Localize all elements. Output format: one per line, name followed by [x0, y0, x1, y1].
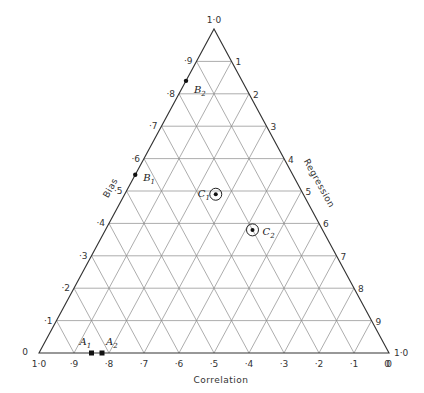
tick-regression: 9 — [376, 317, 382, 327]
tick-bias: ·2 — [61, 283, 70, 293]
tick-bias: ·1 — [44, 316, 53, 326]
grid-line-correlation — [162, 126, 285, 353]
point-marker — [89, 351, 94, 356]
tick-correlation: ·6 — [175, 359, 184, 369]
tick-correlation: ·5 — [210, 359, 219, 369]
point-label: C1 — [198, 188, 210, 202]
tick-regression: 3 — [271, 122, 277, 132]
point-label-subscript: 1 — [205, 194, 209, 202]
grid-lines — [57, 61, 372, 353]
point-marker — [214, 192, 218, 196]
tick-apex: 1·0 — [207, 15, 222, 25]
tick-labels: 1·0·9·8·7·6·5·4·3·2·10·1·2·3·4·5·6·7·8·9… — [22, 15, 408, 369]
grid-line-correlation — [57, 321, 75, 353]
tick-bias-zero: 0 — [22, 347, 28, 357]
point-label-subscript: 2 — [112, 342, 118, 350]
tick-regression: 4 — [288, 155, 294, 165]
point-marker — [251, 228, 255, 232]
tick-correlation: ·3 — [280, 359, 289, 369]
tick-regression: 1 — [236, 57, 242, 67]
point-b1: B1 — [133, 172, 155, 186]
point-b2: B2 — [184, 79, 207, 98]
point-label-subscript: 1 — [87, 342, 91, 350]
tick-bias: ·8 — [166, 89, 175, 99]
tick-regression: 6 — [323, 219, 329, 229]
tick-regression: 1·0 — [394, 348, 409, 358]
grid-line-regression — [354, 321, 372, 353]
point-label: C2 — [263, 226, 276, 240]
point-marker — [100, 351, 105, 356]
grid-line-regression — [144, 126, 267, 353]
tick-regression: 5 — [306, 187, 312, 197]
tick-correlation: ·4 — [245, 359, 254, 369]
point-label: B2 — [193, 84, 206, 98]
point-label: B1 — [142, 172, 155, 186]
point-label-subscript: 1 — [151, 178, 155, 186]
tick-correlation: ·1 — [350, 359, 359, 369]
tick-bias: ·9 — [184, 56, 193, 66]
point-marker — [184, 79, 188, 83]
tick-bias: ·4 — [96, 218, 105, 228]
tick-correlation: ·2 — [315, 359, 324, 369]
point-marker — [133, 173, 137, 177]
grid-line-regression — [74, 61, 232, 353]
ternary-diagram: 1·0·9·8·7·6·5·4·3·2·10·1·2·3·4·5·6·7·8·9… — [0, 0, 424, 393]
tick-regression: 2 — [253, 90, 259, 100]
grid-line-correlation — [127, 191, 215, 353]
grid-line-regression — [214, 191, 302, 353]
tick-bias: ·3 — [79, 251, 88, 261]
axis-label-correlation: Correlation — [193, 375, 248, 385]
tick-regression-zero: 0 — [384, 359, 390, 369]
tick-correlation: 1·0 — [32, 359, 47, 369]
point-label-subscript: 2 — [269, 232, 275, 240]
tick-correlation: ·7 — [140, 359, 149, 369]
tick-bias: ·6 — [131, 154, 140, 164]
point-label: A1 — [79, 336, 92, 350]
tick-bias: ·7 — [149, 121, 158, 131]
grid-line-regression — [284, 256, 337, 353]
tick-regression: 7 — [341, 252, 347, 262]
tick-correlation: ·8 — [105, 359, 114, 369]
point-label-subscript: 2 — [200, 90, 206, 98]
grid-line-correlation — [92, 256, 145, 353]
tick-regression: 8 — [358, 284, 364, 294]
tick-correlation: ·9 — [70, 359, 79, 369]
